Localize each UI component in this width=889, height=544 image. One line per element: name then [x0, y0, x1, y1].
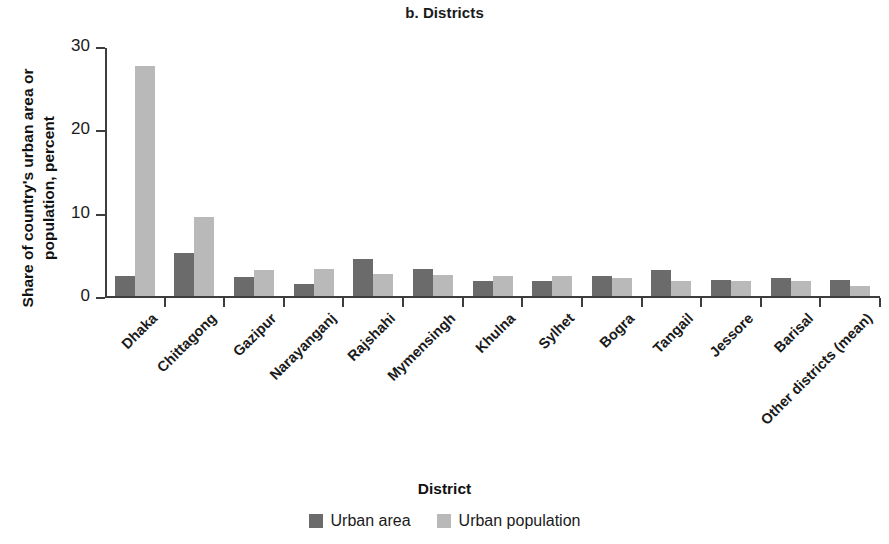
bar-group [590, 276, 634, 296]
bar-urban-area [234, 277, 254, 296]
bar-group [292, 269, 336, 296]
x-axis-category-labels: DhakaChittagongGazipurNarayanganjRajshah… [105, 310, 880, 460]
legend-item-urban-area[interactable]: Urban area [309, 512, 411, 530]
bar-urban-area [771, 278, 791, 296]
chart-title: b. Districts [0, 4, 889, 21]
x-axis-category-label: Sylhet [535, 310, 577, 352]
y-axis-line [105, 48, 107, 298]
x-axis-category-label: Dhaka [118, 310, 160, 352]
x-axis-tick [879, 298, 881, 307]
bar-urban-area [532, 281, 552, 296]
x-axis-tick [760, 298, 762, 307]
legend-swatch-icon [437, 514, 451, 528]
x-axis-category-label: Jessore [706, 310, 756, 360]
x-axis-category-label: Barisal [770, 310, 816, 356]
bar-urban-population [433, 275, 453, 296]
x-axis-tick [521, 298, 523, 307]
x-axis-tick [283, 298, 285, 307]
bar-group [530, 276, 574, 296]
x-axis-tick [164, 298, 166, 307]
bar-group [709, 280, 753, 296]
y-axis-title-line-1: Share of country's urban area or [17, 69, 38, 308]
bar-group [411, 269, 455, 296]
bar-urban-population [731, 281, 751, 296]
bar-urban-area [353, 259, 373, 296]
y-axis-title: Share of country's urban area or populat… [15, 43, 61, 333]
bar-group [649, 270, 693, 296]
x-axis-tick [223, 298, 225, 307]
bar-group [232, 270, 276, 296]
bar-urban-population [552, 276, 572, 296]
bar-urban-population [135, 66, 155, 296]
x-axis-category-label: Gazipur [230, 310, 279, 359]
bar-urban-population [194, 217, 214, 296]
legend-swatch-icon [309, 514, 323, 528]
x-axis-category-label: Chittagong [154, 310, 219, 375]
bar-urban-population [493, 276, 513, 296]
x-axis-tick [700, 298, 702, 307]
y-axis-tick-label: 10 [71, 203, 90, 223]
y-axis-tick: 0 [96, 297, 105, 299]
x-axis-category-label: Khulna [472, 310, 518, 356]
bar-urban-population [791, 281, 811, 296]
bar-urban-area [413, 269, 433, 296]
x-axis-tick [342, 298, 344, 307]
x-axis-category-label: Other districts (mean) [758, 310, 876, 428]
bar-urban-area [174, 253, 194, 296]
bar-urban-population [373, 274, 393, 297]
x-axis-tick [581, 298, 583, 307]
y-axis-tick-label: 30 [71, 36, 90, 56]
bar-urban-population [314, 269, 334, 296]
bar-urban-area [830, 280, 850, 296]
y-axis-tick: 10 [96, 214, 105, 216]
y-axis-tick: 20 [96, 130, 105, 132]
legend-label: Urban population [459, 512, 581, 530]
bar-urban-area [294, 284, 314, 297]
bar-group [769, 278, 813, 296]
bar-urban-population [850, 286, 870, 296]
y-axis-tick-label: 0 [81, 286, 90, 306]
y-axis-tick-label: 20 [71, 119, 90, 139]
legend-label: Urban area [331, 512, 411, 530]
plot-area: 0102030 [105, 48, 880, 298]
bar-urban-area [115, 276, 135, 296]
x-axis-tick [402, 298, 404, 307]
x-axis-category-label: Tangail [650, 310, 696, 356]
y-axis-tick: 30 [96, 47, 105, 49]
x-axis-category-label: Bogra [596, 310, 637, 351]
x-axis-category-label: Rajshahi [345, 310, 399, 364]
x-axis-tick [819, 298, 821, 307]
bar-group [172, 217, 216, 296]
bar-urban-area [473, 281, 493, 296]
y-axis-title-line-2: population, percent [38, 116, 59, 260]
legend-item-urban-population[interactable]: Urban population [437, 512, 581, 530]
x-axis-tick [641, 298, 643, 307]
bar-urban-population [671, 281, 691, 296]
bar-group [828, 280, 872, 296]
bar-urban-area [651, 270, 671, 296]
bar-group [351, 259, 395, 296]
bar-group [471, 276, 515, 296]
x-axis-tick [462, 298, 464, 307]
bar-urban-area [592, 276, 612, 296]
bar-group [113, 66, 157, 296]
bar-urban-population [612, 278, 632, 296]
x-axis-line [105, 296, 880, 298]
x-axis-title: District [0, 480, 889, 498]
bar-urban-population [254, 270, 274, 296]
bar-urban-area [711, 280, 731, 296]
chart-legend: Urban areaUrban population [0, 512, 889, 530]
chart-figure: b. Districts Share of country's urban ar… [0, 0, 889, 544]
